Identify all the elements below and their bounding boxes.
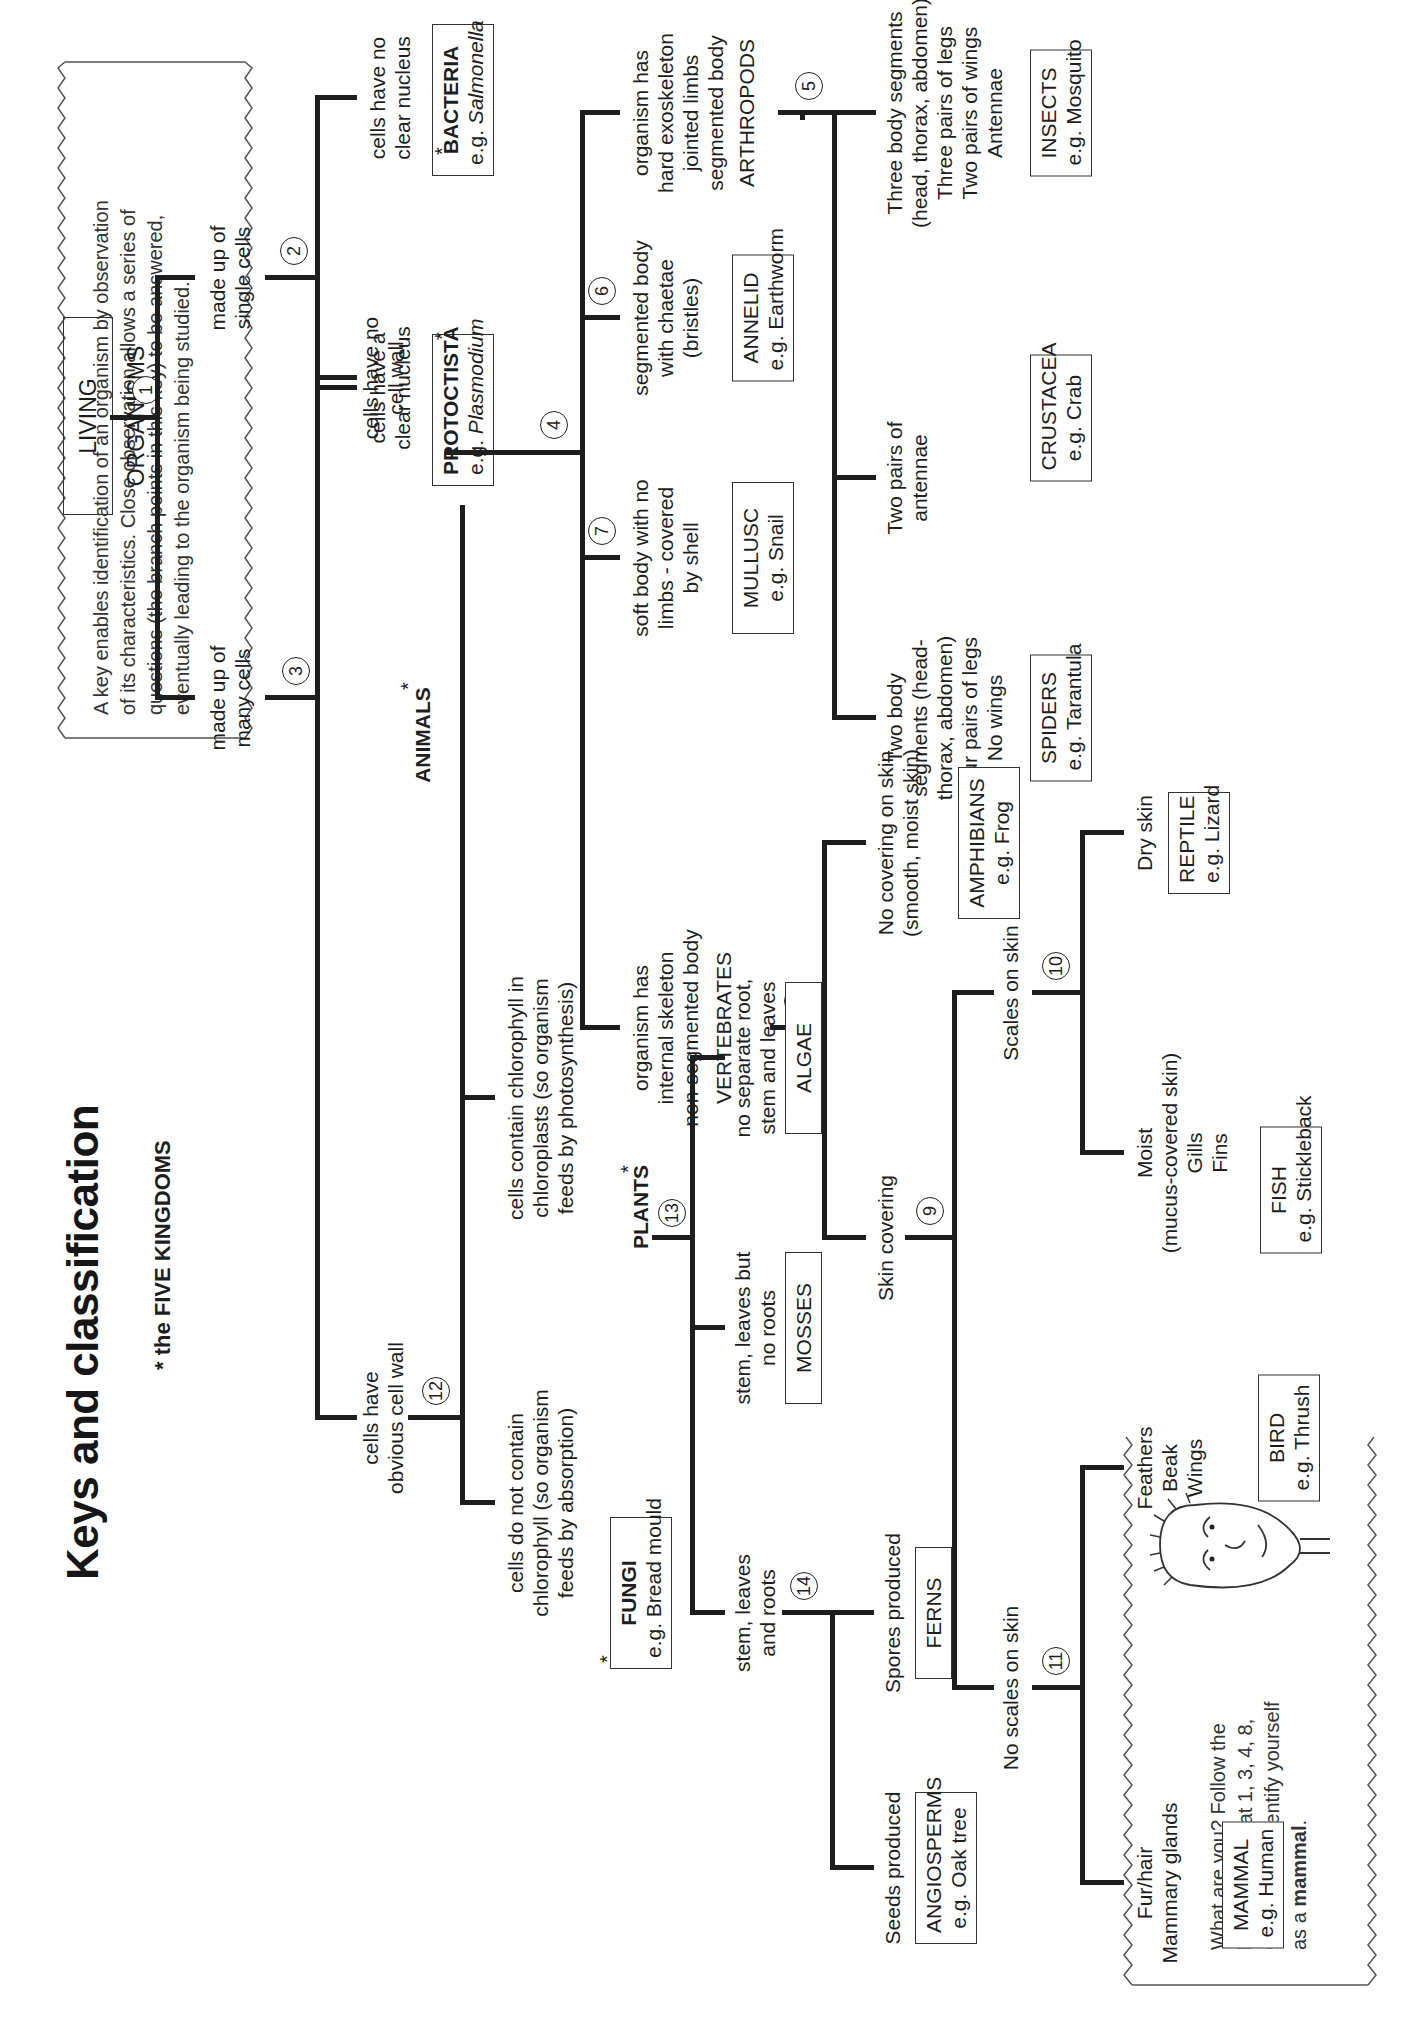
organism-bird: BIRDe.g. Thrush [1258, 1375, 1320, 1502]
connector [690, 1325, 725, 1330]
branch-point-10: 10 [1042, 952, 1070, 980]
connector [580, 110, 620, 115]
connector [952, 1685, 994, 1690]
branch-point-11: 11 [1042, 1647, 1070, 1675]
organism-crustacea: CRUSTACEAe.g. Crab [1030, 355, 1092, 482]
group-plants: PLANTS [628, 1165, 653, 1249]
connector [822, 1235, 866, 1240]
organism-spiders: SPIDERSe.g. Tarantula [1030, 655, 1092, 782]
connector [822, 840, 866, 845]
question-spores: Spores produced [880, 1533, 905, 1693]
branch-point-12: 12 [422, 1377, 450, 1405]
connector [265, 275, 315, 280]
branch-point-4: 4 [540, 411, 568, 439]
question-three-segments: Three body segments(head, thorax, abdome… [882, 0, 1007, 228]
question-no-root: no separate root,stem and leaves [730, 979, 780, 1138]
connector [690, 1055, 695, 1615]
connector [832, 475, 876, 480]
organism-insects: INSECTSe.g. Mosquito [1030, 50, 1092, 177]
question-soft-body: soft body with nolimbs - coveredby shell [628, 479, 703, 637]
question-single-cells: made up ofsingle cells [205, 225, 255, 330]
organism-mullusc: MULLUSCe.g. Snail [732, 482, 794, 634]
connector [460, 1500, 495, 1505]
connector [155, 695, 195, 700]
question-seeds: Seeds produced [880, 1792, 905, 1945]
connector [1080, 1150, 1124, 1155]
connector [580, 110, 585, 1030]
group-arthropods: ARTHROPODS [734, 33, 759, 193]
connector [315, 1415, 357, 1420]
connector [408, 1415, 463, 1420]
connector [830, 1610, 874, 1615]
branch-point-13: 13 [658, 1199, 686, 1227]
connector [952, 990, 994, 995]
branch-point-3: 3 [282, 657, 310, 685]
question-no-cell-wall: cells have nocell wall [358, 317, 408, 440]
connector [460, 1095, 495, 1100]
organism-mosses: MOSSES [785, 1252, 822, 1404]
question-no-nucleus: cells have noclear nucleus [365, 36, 415, 160]
classification-key-page: Keys and classification * the FIVE KINGD… [0, 0, 1415, 2035]
branch-point-7: 7 [588, 517, 616, 545]
organism-annelid: ANNELIDe.g. Earthworm [732, 255, 794, 382]
question-no-roots: stem, leaves butno roots [730, 1252, 780, 1405]
mammal-emphasis: mammal [1288, 1825, 1310, 1906]
question-internal-skeleton: organism hasinternal skeletonnon-segment… [628, 929, 736, 1126]
connector [315, 95, 357, 100]
question-no-scales: No scales on skin [998, 1606, 1023, 1771]
connector [315, 95, 320, 390]
kingdom-marker: * [432, 332, 452, 340]
connector [830, 1865, 874, 1870]
connector [832, 715, 876, 720]
branch-point-6: 6 [588, 277, 616, 305]
connector [905, 1235, 955, 1240]
organism-protoctista: PROTOCTISTA e.g. Plasmodium [432, 334, 494, 486]
connector [1080, 1465, 1085, 1885]
organism-algae: ALGAE [785, 982, 822, 1134]
question-scales: Scales on skin [998, 925, 1023, 1060]
kingdom-marker: * [398, 682, 418, 690]
kingdom-marker: * [597, 1655, 617, 1663]
kingdom-marker: * [618, 1165, 638, 1173]
question-moist: Moist(mucus-covered skin)GillsFins [1132, 1053, 1232, 1254]
page-subtitle: * the FIVE KINGDOMS [150, 1140, 176, 1370]
connector [445, 450, 580, 455]
connector [580, 1025, 620, 1030]
branch-point-5: 5 [795, 72, 823, 100]
connector [1080, 830, 1085, 1155]
connector [952, 990, 957, 1690]
connector [1080, 830, 1124, 835]
page-title: Keys and classification [58, 1105, 108, 1580]
connector [155, 275, 195, 280]
question-no-chlorophyll: cells do not containchlorophyll (so orga… [503, 1389, 578, 1617]
connector [315, 375, 357, 380]
connector [778, 110, 836, 115]
organism-fungi: FUNGIe.g. Bread mould [610, 1517, 672, 1669]
connector [315, 385, 357, 390]
connector [832, 110, 876, 115]
connector [580, 555, 620, 560]
question-with-roots: stem, leavesand roots [730, 1554, 780, 1672]
question-chlorophyll: cells contain chlorophyll inchloroplasts… [503, 976, 578, 1220]
connector [822, 840, 827, 1240]
activity-note-line: as a mammal. [1286, 1701, 1313, 1950]
connector [1032, 1685, 1080, 1690]
connector [832, 110, 837, 720]
connector [580, 315, 620, 320]
question-exoskeleton: organism hashard exoskeletonjointed limb… [628, 33, 759, 193]
root-node: LIVING ORGANISMS [63, 317, 113, 515]
question-feathers: FeathersBeakWings [1132, 1427, 1207, 1510]
branch-point-2: 2 [280, 237, 308, 265]
group-animals: ANIMALS [410, 687, 435, 783]
organism-reptile: REPTILEe.g. Lizard [1168, 792, 1230, 894]
connector [690, 1610, 725, 1615]
organism-ferns: FERNS [915, 1547, 952, 1679]
connector [830, 1610, 835, 1870]
organism-fish: FISHe.g. Stickleback [1260, 1127, 1322, 1254]
connector [1032, 990, 1080, 995]
question-two-antennae: Two pairs ofantennae [882, 421, 932, 534]
question-many-cells: made up ofmany cells [205, 645, 255, 750]
connector [1080, 1465, 1124, 1470]
connector [315, 375, 320, 1420]
question-cell-wall: cells haveobvious cell wall [358, 1342, 408, 1494]
